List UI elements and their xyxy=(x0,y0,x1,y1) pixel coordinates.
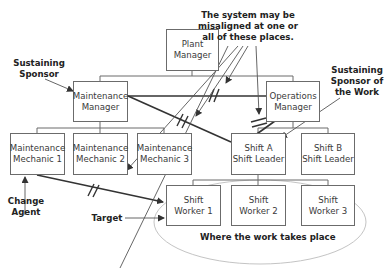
mechanic-1-box: Maintenance Mechanic 1 xyxy=(10,133,65,175)
mechanic-1-label-2: Mechanic 1 xyxy=(13,154,62,165)
mechanic-2-box: Maintenance Mechanic 2 xyxy=(73,133,128,175)
mechanic-3-label-1: Maintenance xyxy=(137,143,192,154)
maintenance-manager-label-2: Manager xyxy=(82,102,120,113)
shift-b-label-1: Shift B xyxy=(314,143,342,154)
worker-3-label-2: Worker 3 xyxy=(309,206,347,217)
misaligned-callout: The system may be misaligned at one or a… xyxy=(196,10,300,43)
worker-1-label-2: Worker 1 xyxy=(174,206,212,217)
worker-2-label-1: Shift xyxy=(249,195,269,206)
shift-worker-2-box: Shift Worker 2 xyxy=(231,185,286,226)
change-agent-label: Change Agent xyxy=(6,196,46,218)
sustaining-sponsor-label: Sustaining Sponsor xyxy=(10,58,68,80)
sustaining-sponsor-line-1: Sustaining xyxy=(10,58,68,69)
sponsor-work-line-1: Sustaining xyxy=(326,65,388,76)
shift-b-leader-box: Shift B Shift Leader xyxy=(301,133,355,175)
shift-worker-3-box: Shift Worker 3 xyxy=(301,185,355,226)
misaligned-line-2: misaligned at one or xyxy=(196,21,300,32)
shift-a-label-2: Shift Leader xyxy=(233,154,285,165)
change-agent-line-2: Agent xyxy=(6,207,46,218)
sponsor-work-line-3: the Work xyxy=(326,87,388,98)
sustaining-sponsor-work-label: Sustaining Sponsor of the Work xyxy=(326,65,388,98)
shift-worker-1-box: Shift Worker 1 xyxy=(166,185,221,226)
target-label: Target xyxy=(90,213,124,224)
operations-manager-label-1: Operations xyxy=(269,91,316,102)
sustaining-sponsor-line-2: Sponsor xyxy=(10,69,68,80)
org-chart-diagram: Plant Manager Maintenance Manager Operat… xyxy=(0,0,388,268)
target-text: Target xyxy=(92,213,123,223)
maintenance-manager-box: Maintenance Manager xyxy=(73,81,128,122)
sponsor-work-line-2: Sponsor of xyxy=(326,76,388,87)
misaligned-line-3: all of these places. xyxy=(196,32,300,43)
work-place-label: Where the work takes place xyxy=(200,232,320,243)
worker-2-label-2: Worker 2 xyxy=(239,206,277,217)
work-place-text: Where the work takes place xyxy=(200,232,335,242)
operations-manager-box: Operations Manager xyxy=(266,81,320,122)
shift-b-label-2: Shift Leader xyxy=(302,154,354,165)
change-agent-line-1: Change xyxy=(6,196,46,207)
mechanic-1-label-1: Maintenance xyxy=(10,143,65,154)
maintenance-manager-label-1: Maintenance xyxy=(73,91,128,102)
mechanic-3-label-2: Mechanic 3 xyxy=(140,154,189,165)
mechanic-3-box: Maintenance Mechanic 3 xyxy=(137,133,192,175)
worker-3-label-1: Shift xyxy=(318,195,338,206)
worker-1-label-1: Shift xyxy=(184,195,204,206)
shift-a-leader-box: Shift A Shift Leader xyxy=(231,133,286,175)
shift-a-label-1: Shift A xyxy=(244,143,272,154)
operations-manager-label-2: Manager xyxy=(274,102,312,113)
misaligned-line-1: The system may be xyxy=(196,10,300,21)
plant-manager-label-2: Manager xyxy=(174,50,212,61)
mechanic-2-label-1: Maintenance xyxy=(73,143,128,154)
mechanic-2-label-2: Mechanic 2 xyxy=(76,154,125,165)
